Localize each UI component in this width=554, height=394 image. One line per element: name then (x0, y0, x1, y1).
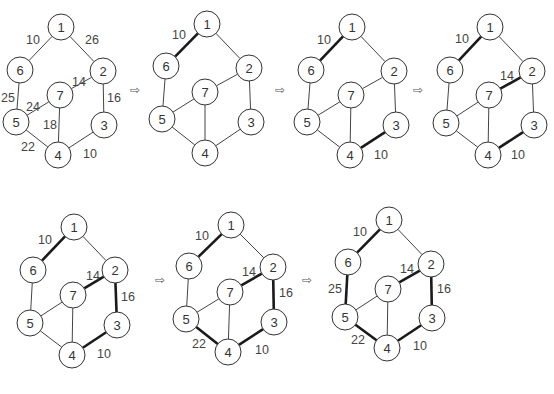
node-3: 3 (419, 305, 445, 331)
edge-5-7 (41, 302, 62, 316)
node-label: 6 (29, 263, 36, 278)
edge-1-2 (361, 36, 385, 61)
edge-3-4-selected (499, 132, 523, 148)
node-2: 2 (418, 251, 444, 277)
node-6: 6 (298, 57, 324, 83)
edge-2-7 (216, 74, 237, 86)
node-label: 3 (392, 118, 399, 133)
edge-6-5 (308, 83, 310, 109)
node-label: 1 (385, 213, 392, 228)
edge-weight-3-4: 10 (374, 148, 388, 162)
node-label: 1 (57, 20, 64, 35)
node-2: 2 (236, 55, 262, 81)
node-2: 2 (102, 257, 128, 283)
edge-2-3-selected (115, 283, 116, 312)
node-7: 7 (338, 82, 364, 108)
arrow-right-icon: ⇨ (155, 273, 165, 287)
node-6: 6 (20, 257, 46, 283)
node-5: 5 (3, 109, 29, 135)
edge-weight-2-3: 16 (121, 290, 135, 304)
step-arrow-icon: ⇨ (130, 83, 140, 97)
edge-weight-1-6: 10 (353, 225, 367, 239)
edge-weight-5-4: 22 (351, 333, 365, 347)
node-label: 2 (245, 61, 252, 76)
node-label: 2 (390, 64, 397, 79)
edge-6-5 (187, 279, 189, 306)
node-label: 4 (383, 341, 390, 356)
node-label: 6 (16, 63, 23, 78)
edge-weight-3-4: 10 (255, 343, 269, 357)
node-label: 6 (344, 255, 351, 270)
node-label: 5 (303, 115, 310, 130)
node-label: 7 (384, 282, 391, 297)
edge-weight-2-7: 14 (86, 269, 100, 283)
edge-1-2 (240, 234, 264, 258)
graph-panel-initial: 1026141625241822101234567 (1, 14, 121, 168)
node-label: 4 (484, 148, 491, 163)
edge-weight-1-6: 10 (38, 233, 52, 247)
node-label: 3 (530, 118, 537, 133)
edge-weight-2-7: 14 (400, 262, 414, 276)
node-label: 1 (227, 218, 234, 233)
edge-2-7 (362, 77, 382, 88)
edge-7-4 (72, 308, 73, 342)
edge-6-5 (163, 79, 165, 106)
graph-panel-step6: 1014162522101234567 (328, 207, 451, 361)
graph-panel-step3: 1014101234567 (433, 14, 547, 168)
node-label: 5 (26, 316, 33, 331)
node-label: 7 (347, 88, 354, 103)
node-label: 5 (442, 116, 449, 131)
arrow-right-icon: ⇨ (130, 83, 140, 97)
node-label: 4 (68, 348, 75, 363)
edge-6-5 (17, 83, 19, 109)
step-arrow-icon: ⇨ (413, 83, 423, 97)
edge-1-2 (499, 36, 523, 61)
node-5: 5 (332, 304, 358, 330)
node-7: 7 (60, 282, 86, 308)
edge-weight-7-4: 18 (43, 118, 57, 132)
node-label: 7 (69, 288, 76, 303)
edge-5-7 (197, 299, 219, 312)
node-label: 2 (99, 64, 106, 79)
edge-weight-3-4: 10 (97, 347, 111, 361)
edge-7-4 (350, 108, 351, 142)
node-5: 5 (173, 306, 199, 332)
node-label: 4 (224, 345, 231, 360)
edge-weight-5-4: 22 (192, 337, 206, 351)
edge-5-7 (173, 99, 194, 112)
edge-2-3-selected (431, 277, 432, 305)
edge-1-2 (398, 229, 422, 254)
node-5: 5 (294, 109, 320, 135)
node-4: 4 (337, 142, 363, 168)
node-5: 5 (17, 310, 43, 336)
edge-3-4-selected (361, 132, 385, 148)
node-label: 6 (307, 63, 314, 78)
edge-weight-3-4: 10 (83, 147, 97, 161)
node-label: 5 (12, 115, 19, 130)
node-4: 4 (374, 335, 400, 361)
edge-weight-2-7: 14 (72, 75, 86, 89)
step-arrow-icon: ⇨ (275, 83, 285, 97)
edge-2-3 (249, 81, 250, 109)
edge-6-5-selected (346, 275, 348, 304)
graph-panel-step1: 101234567 (149, 11, 264, 166)
node-7: 7 (217, 279, 243, 305)
node-1: 1 (194, 11, 220, 37)
node-2: 2 (90, 58, 116, 84)
node-1: 1 (218, 212, 244, 238)
edge-weight-3-4: 10 (511, 148, 525, 162)
edge-weight-6-5: 25 (1, 91, 15, 105)
graph-panel-step2: 10101234567 (294, 14, 409, 168)
node-3: 3 (261, 309, 287, 335)
edge-2-3 (394, 84, 395, 112)
node-1: 1 (61, 214, 87, 240)
edge-7-4 (228, 305, 229, 339)
node-label: 7 (226, 285, 233, 300)
edge-5-4 (172, 127, 195, 145)
node-label: 3 (270, 315, 277, 330)
edge-3-4 (69, 132, 93, 148)
node-6: 6 (335, 249, 361, 275)
mst-diagram: 1026141625241822101234567101234567101012… (0, 0, 554, 394)
node-label: 3 (100, 118, 107, 133)
edge-weight-1-6: 10 (455, 32, 469, 46)
